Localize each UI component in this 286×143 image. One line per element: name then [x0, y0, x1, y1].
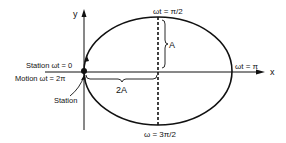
label-top-wt-pi-over-2: ωt = π/2	[153, 7, 183, 16]
station-dot	[81, 68, 87, 74]
label-bottom-w-3pi-over-2: ω = 3π/2	[144, 130, 177, 139]
label-motion-wt2pi: Motion ωt = 2π	[15, 74, 65, 83]
x-axis-label: x	[270, 67, 275, 77]
label-a: A	[169, 40, 175, 50]
label-2a: 2A	[116, 85, 127, 95]
label-right-wt-pi: ωt = π	[235, 62, 259, 71]
orbit-diagram: y x 2A A ωt = π/2 ωt = π ω = 3π/2 Statio…	[0, 0, 286, 143]
y-axis-arrow-icon	[82, 9, 87, 17]
brace-2a	[86, 75, 157, 82]
label-station-wt0: Station ωt = 0	[26, 61, 72, 70]
y-axis-label: y	[73, 9, 78, 19]
station-pointer-arrow-icon	[81, 74, 86, 80]
label-station: Station	[54, 96, 77, 105]
brace-a	[162, 20, 168, 68]
